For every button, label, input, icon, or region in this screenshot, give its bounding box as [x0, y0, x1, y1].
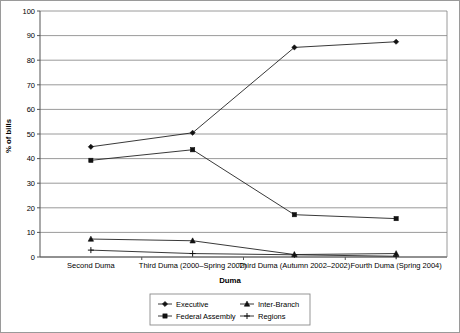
- series-line: [91, 42, 396, 147]
- series-line: [91, 250, 396, 256]
- series-inter-branch: [88, 236, 399, 257]
- series-line: [91, 150, 396, 219]
- data-series-group: [88, 39, 399, 259]
- legend-label: Executive: [176, 300, 209, 309]
- y-tick-label: 50: [27, 130, 35, 139]
- data-point-marker: [292, 213, 296, 217]
- y-tick-label: 90: [27, 31, 35, 40]
- x-axis-category-labels: Second DumaThird Duma (2000–Spring 2002)…: [67, 261, 442, 270]
- series-executive: [88, 39, 398, 149]
- x-category-label: Third Duma (2000–Spring 2002): [139, 261, 247, 270]
- chart-legend: ExecutiveInter-BranchFederal AssemblyReg…: [150, 294, 310, 325]
- data-point-marker: [394, 39, 399, 44]
- y-tick-label: 10: [27, 228, 35, 237]
- legend-label: Inter-Branch: [258, 300, 299, 309]
- y-tick-label: 70: [27, 81, 35, 90]
- y-tick-label: 80: [27, 56, 35, 65]
- series-line: [91, 239, 396, 254]
- axis-lines: [40, 11, 447, 260]
- y-tick-label: 100: [22, 7, 35, 16]
- legend-label: Federal Assembly: [176, 312, 236, 321]
- x-category-label: Fourth Duma (Spring 2004): [350, 261, 442, 270]
- y-tick-label: 40: [27, 154, 35, 163]
- y-tick-label: 20: [27, 204, 35, 213]
- x-category-label: Third Duma (Autumn 2002–2002): [239, 261, 351, 270]
- line-chart: 0102030405060708090100 Second DumaThird …: [0, 0, 460, 333]
- x-axis-title: Duma: [219, 276, 241, 285]
- gridlines-group: [37, 11, 447, 257]
- y-tick-label: 60: [27, 105, 35, 114]
- x-category-label: Second Duma: [67, 261, 115, 270]
- y-axis-title: % of bills: [4, 118, 13, 153]
- y-tick-label: 30: [27, 179, 35, 188]
- data-point-marker: [394, 217, 398, 221]
- legend-marker: [163, 314, 167, 318]
- chart-container: 0102030405060708090100 Second DumaThird …: [0, 0, 460, 333]
- legend-label: Regions: [258, 312, 286, 321]
- y-axis-tick-labels: 0102030405060708090100: [22, 7, 35, 262]
- data-point-marker: [88, 144, 93, 149]
- y-tick-label: 0: [31, 253, 35, 262]
- data-point-marker: [191, 148, 195, 152]
- data-point-marker: [89, 158, 93, 162]
